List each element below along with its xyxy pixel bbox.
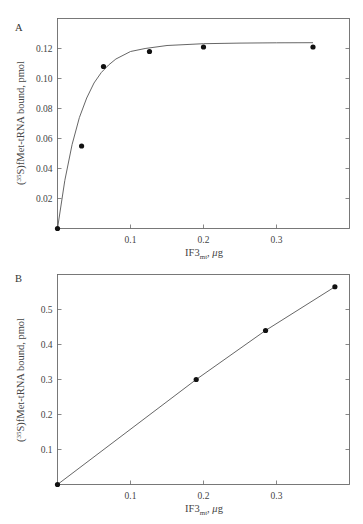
panel-label-b: B bbox=[15, 273, 22, 284]
y-axis-label-a: (35S)fMet-tRNA bound, pmol bbox=[15, 61, 28, 185]
y-tick-label: 0.4 bbox=[41, 340, 53, 350]
plot-frame-a bbox=[58, 19, 350, 229]
data-point bbox=[147, 49, 152, 54]
x-tick-label: 0.1 bbox=[125, 235, 137, 245]
chart-panel-a: A 0.020.040.060.080.100.12 0.10.20.3 (35… bbox=[15, 19, 350, 262]
data-points-a bbox=[55, 44, 316, 231]
y-tick-label: 0.5 bbox=[41, 305, 53, 315]
data-point bbox=[263, 328, 268, 333]
panel-label-a: A bbox=[15, 22, 23, 33]
x-tick-label: 0.3 bbox=[271, 235, 283, 245]
x-axis-ticks-b: 0.10.20.3 bbox=[125, 481, 283, 501]
data-point bbox=[55, 226, 60, 231]
y-tick-label: 0.04 bbox=[36, 164, 53, 174]
data-point bbox=[55, 482, 60, 487]
x-tick-label: 0.2 bbox=[198, 235, 210, 245]
data-point bbox=[310, 44, 315, 49]
data-points-b bbox=[55, 284, 338, 487]
y-tick-label: 0.08 bbox=[36, 104, 53, 114]
data-point bbox=[201, 44, 206, 49]
chart-panel-b: B 0.10.20.30.40.5 0.10.20.3 (35S)fMet-tR… bbox=[15, 273, 350, 517]
y-tick-label: 0.3 bbox=[41, 375, 53, 385]
data-point bbox=[101, 64, 106, 69]
y-tick-label: 0.02 bbox=[36, 194, 53, 204]
y-tick-label: 0.2 bbox=[41, 410, 53, 420]
y-axis-ticks-a: 0.020.040.060.080.100.12 bbox=[36, 44, 350, 204]
y-tick-label: 0.1 bbox=[41, 445, 53, 455]
data-point bbox=[194, 377, 199, 382]
y-tick-label: 0.12 bbox=[36, 44, 53, 54]
x-tick-label: 0.1 bbox=[125, 491, 137, 501]
plot-frame-b bbox=[58, 275, 350, 485]
x-tick-label: 0.3 bbox=[271, 491, 283, 501]
y-tick-label: 0.06 bbox=[36, 134, 53, 144]
fit-line-b bbox=[58, 287, 335, 485]
data-point bbox=[79, 143, 84, 148]
y-tick-label: 0.10 bbox=[36, 74, 53, 84]
x-axis-ticks-a: 0.10.20.3 bbox=[125, 225, 283, 245]
y-axis-label-b: (35S)fMet-tRNA bound, pmol bbox=[15, 318, 28, 442]
data-point bbox=[332, 284, 337, 289]
fit-curve-a bbox=[58, 43, 314, 229]
x-axis-label-a: IF3mt, μg bbox=[185, 247, 224, 261]
figure: A 0.020.040.060.080.100.12 0.10.20.3 (35… bbox=[0, 0, 363, 524]
x-tick-label: 0.2 bbox=[198, 491, 210, 501]
x-axis-label-b: IF3mt, μg bbox=[185, 503, 224, 517]
